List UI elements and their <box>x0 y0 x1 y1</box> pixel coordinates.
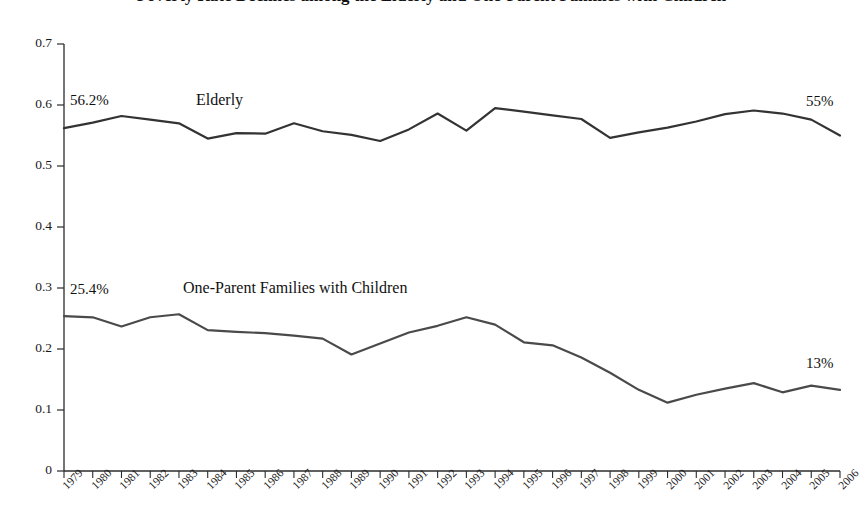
series-line <box>64 314 840 402</box>
y-tick-label: 0.4 <box>8 218 52 234</box>
oneparent-series-label: One-Parent Families with Children <box>183 279 407 297</box>
series-line <box>64 108 840 141</box>
y-tick-label: 0 <box>8 462 52 478</box>
y-tick-label: 0.2 <box>8 340 52 356</box>
elderly-start-value-label: 56.2% <box>70 92 109 109</box>
elderly-end-value-label: 55% <box>806 93 834 110</box>
y-tick-label: 0.5 <box>8 157 52 173</box>
oneparent-end-value-label: 13% <box>806 355 834 372</box>
chart-plot-area <box>0 0 863 523</box>
chart-container: Poverty Rate Declines among the Elderly … <box>0 0 863 523</box>
y-tick-label: 0.6 <box>8 96 52 112</box>
chart-axes <box>64 44 840 471</box>
oneparent-start-value-label: 25.4% <box>70 281 109 298</box>
chart-series-lines <box>64 108 840 403</box>
y-tick-label: 0.3 <box>8 279 52 295</box>
y-tick-label: 0.7 <box>8 35 52 51</box>
elderly-series-label: Elderly <box>196 91 243 109</box>
y-tick-label: 0.1 <box>8 401 52 417</box>
chart-y-ticks <box>57 44 64 471</box>
